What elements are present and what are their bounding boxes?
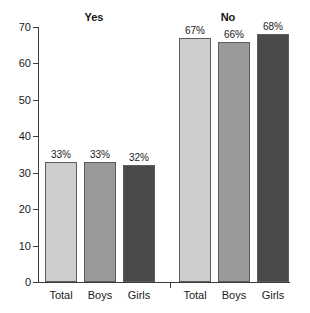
y-tick-label-10: 10 [5,241,31,252]
category-label-no-total: Total [183,289,206,301]
group-header-yes: Yes [85,12,104,23]
y-tick-label-70: 70 [5,22,31,33]
category-label-no-boys: Boys [222,289,246,301]
bar-yes-total [45,162,77,282]
y-tick-label-60: 60 [5,58,31,69]
group-separator-tick [170,283,171,288]
bar-value-label-no-total: 67% [185,26,205,36]
category-label-yes-total: Total [49,289,72,301]
y-tick-label-50: 50 [5,95,31,106]
y-tick-label-20: 20 [5,204,31,215]
bar-no-boys [218,42,250,282]
bar-no-total [179,38,211,282]
plot-area: 33% 33% 32% 67% 66% 68% [38,27,290,282]
y-tick-label-30: 30 [5,168,31,179]
bar-value-label-no-girls: 68% [263,22,283,32]
category-label-no-girls: Girls [262,289,285,301]
group-header-no: No [221,12,236,23]
y-tick-label-40: 40 [5,131,31,142]
bar-value-label-yes-boys: 33% [90,150,110,160]
bar-chart: Yes No 0 10 20 30 40 50 60 70 33% 33% 32… [0,0,310,313]
y-tick-label-0: 0 [5,277,31,288]
category-label-yes-girls: Girls [128,289,151,301]
bar-yes-boys [84,162,116,282]
bar-value-label-yes-total: 33% [51,150,71,160]
bar-value-label-yes-girls: 32% [129,153,149,163]
bar-value-label-no-boys: 66% [224,30,244,40]
category-label-yes-boys: Boys [88,289,112,301]
bar-no-girls [257,34,289,282]
x-axis-line [38,282,290,283]
bar-yes-girls [123,165,155,282]
